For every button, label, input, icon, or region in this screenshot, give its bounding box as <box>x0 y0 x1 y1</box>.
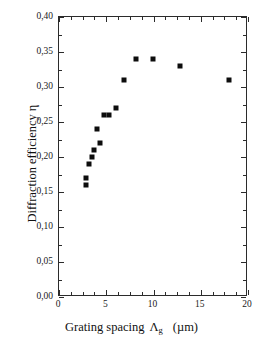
y-tick-label: 0,40 <box>8 11 53 21</box>
data-point-marker <box>122 78 127 83</box>
y-tick-label: 0,00 <box>8 291 53 301</box>
x-tick-label: 0 <box>56 299 61 309</box>
data-point-marker <box>87 162 92 167</box>
x-axis-title-main: Grating spacing <box>65 320 145 334</box>
x-axis-title-subscript: g <box>159 325 163 335</box>
data-point-marker <box>227 78 232 83</box>
figure-scatter-plot: Diffraction efficiency η Grating spacing… <box>0 0 263 345</box>
x-axis-title-symbol: Λ <box>149 320 158 334</box>
data-series-markers <box>59 17 246 295</box>
y-axis-title: Diffraction efficiency η <box>25 44 40 284</box>
data-point-marker <box>97 141 102 146</box>
x-tick-label: 15 <box>195 299 205 309</box>
data-point-marker <box>90 155 95 160</box>
x-axis-title: Grating spacingΛg(µm) <box>0 320 263 335</box>
data-point-marker <box>84 183 89 188</box>
x-tick-major-top <box>248 17 249 22</box>
x-tick-label: 10 <box>148 299 158 309</box>
data-point-marker <box>94 127 99 132</box>
data-point-marker <box>177 64 182 69</box>
y-tick-major-right <box>241 297 246 298</box>
data-point-marker <box>91 148 96 153</box>
y-tick-major <box>59 297 64 298</box>
x-tick-label: 5 <box>103 299 108 309</box>
plot-area <box>58 16 247 296</box>
y-tick-label: 0,05 <box>8 256 53 266</box>
data-point-marker <box>113 106 118 111</box>
y-tick-label: 0,15 <box>8 186 53 196</box>
data-point-marker <box>84 176 89 181</box>
x-axis-title-units: (µm) <box>173 320 198 334</box>
data-point-marker <box>134 57 139 62</box>
x-tick-major <box>248 290 249 295</box>
y-tick-label: 0,25 <box>8 116 53 126</box>
y-tick-label: 0,35 <box>8 46 53 56</box>
data-point-marker <box>107 113 112 118</box>
y-tick-label: 0,20 <box>8 151 53 161</box>
x-tick-label: 20 <box>242 299 252 309</box>
y-tick-label: 0,30 <box>8 81 53 91</box>
y-tick-label: 0,10 <box>8 221 53 231</box>
data-point-marker <box>150 57 155 62</box>
